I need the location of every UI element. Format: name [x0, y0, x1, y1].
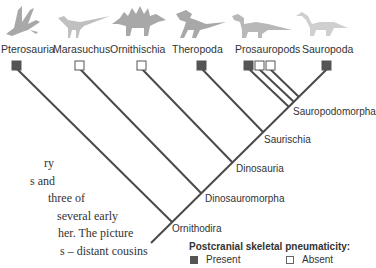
marker-ornithischia-absent [137, 61, 146, 70]
marker-sauropoda-present [322, 61, 331, 70]
marker-prosauropod-3-absent [266, 61, 275, 70]
taxon-label-theropoda: Theropoda [172, 43, 223, 55]
body-text-line: s – distant cousins [0, 243, 148, 261]
marker-theropoda-present [197, 61, 206, 70]
present-swatch-icon [190, 256, 198, 264]
taxon-label-prosauropods: Prosauropods [235, 43, 300, 55]
legend-absent-label: Absent [302, 254, 333, 265]
taxon-label-marasuchus: Marasuchus [53, 43, 110, 55]
sauropod-silhouette-icon [296, 12, 348, 36]
marker-pterosauria-present [12, 61, 21, 70]
prosauropod-silhouette-icon [232, 14, 292, 38]
node-label-dinosauromorpha: Dinosauromorpha [205, 193, 285, 204]
marker-prosauropod-1-present [244, 61, 253, 70]
taxon-label-sauropoda: Sauropoda [302, 43, 353, 55]
body-text-line: her. The picture [0, 225, 148, 243]
body-text-line: ry [0, 155, 148, 173]
node-label-saurischia: Saurischia [264, 134, 311, 145]
branch-ornithischia [142, 69, 232, 162]
body-text-line: s and [0, 173, 148, 191]
theropod-silhouette-icon [176, 10, 226, 38]
branch-theropoda [202, 69, 263, 132]
body-text-line: several early [0, 208, 148, 226]
legend-present-label: Present [206, 254, 240, 265]
legend-absent: Absent [286, 254, 333, 265]
stegosaur-silhouette-icon [112, 6, 166, 36]
body-text-line: three of [0, 190, 148, 208]
node-label-dinosauria: Dinosauria [236, 163, 284, 174]
branch-prosauropod-1 [249, 69, 289, 107]
node-label-ornithodira: Ornithodira [172, 223, 221, 234]
legend-present: Present [190, 254, 240, 265]
marker-marasuchus-absent [75, 61, 84, 70]
body-text: ry s and three of several early her. The… [0, 155, 148, 260]
trunk-branch [151, 69, 327, 243]
legend-title: Postcranial skeletal pneumaticity: [189, 241, 350, 252]
marasuchus-silhouette-icon [58, 16, 110, 38]
pterosaur-silhouette-icon [6, 6, 40, 36]
node-label-sauropodomorpha: Sauropodomorpha [293, 106, 376, 117]
absent-swatch-icon [286, 256, 294, 264]
taxon-label-ornithischia: Ornithischia [110, 43, 165, 55]
marker-prosauropod-2-absent [255, 61, 264, 70]
taxon-label-pterosauria: Pterosauria [1, 43, 55, 55]
